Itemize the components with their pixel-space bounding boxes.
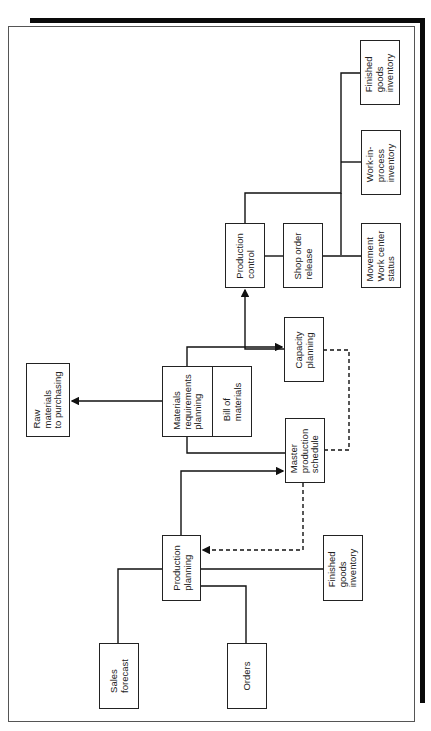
node-label: Materials requirements planning [172,374,204,429]
node-sales-forecast: Sales forecast [99,643,139,709]
node-movement-work-center-status: Movement Work center status [361,223,401,288]
node-label: Finished goods inventory [327,549,359,588]
node-production-control: Production control [225,223,265,288]
node-label: Master production schedule [289,428,321,472]
line-pc-to-fg-top [245,73,360,223]
node-finished-goods-inventory-top: Finished goods inventory [360,40,400,105]
node-label: Raw materials to purchasing [32,371,64,428]
line-mrp-to-mps [187,436,285,453]
node-finished-goods-inventory-bottom: Finished goods inventory [323,535,363,601]
node-label: Movement Work center status [365,230,397,281]
node-wip-inventory: Work-in- process inventory [361,130,401,195]
node-bill-of-materials: Bill of materials [212,366,252,437]
line-mps-to-pp-dashed [203,483,303,550]
line-cap-to-pc [245,290,284,349]
node-label: Bill of materials [222,382,243,421]
node-label: Production control [235,233,256,278]
line-mrp-to-cap [187,347,282,366]
line-sales-to-pp [118,569,162,643]
node-materials-requirements-planning: Materials requirements planning [162,366,213,437]
node-capacity-planning: Capacity planning [284,317,324,382]
node-label: Finished goods inventory [364,53,396,92]
node-label: Work-in- process inventory [365,143,397,182]
node-master-production-schedule: Master production schedule [285,418,325,483]
line-orders-to-pp [200,586,246,643]
line-cap-mps-dashed [323,350,349,450]
node-label: Production planning [171,545,192,590]
line-pp-to-mps [181,471,283,535]
node-label: Capacity planning [294,331,315,368]
node-label: Sales forecast [109,659,130,693]
node-orders: Orders [227,643,267,709]
node-label: Shop order release [293,232,314,279]
node-shop-order-release: Shop order release [283,223,323,288]
node-raw-materials-to-purchasing: Raw materials to purchasing [26,363,70,437]
node-label: Orders [242,661,253,690]
node-production-planning: Production planning [162,535,201,601]
